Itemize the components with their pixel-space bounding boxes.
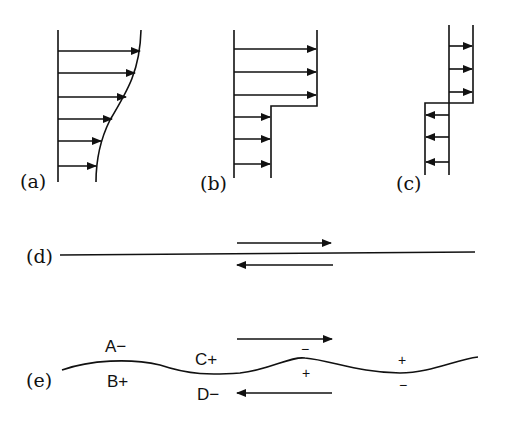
panel-c: (c) <box>396 25 473 194</box>
panel-a-label: (a) <box>20 170 46 192</box>
shear-flow-diagram: (a) (b) (c) (d) (e) A− B+ <box>0 0 505 421</box>
label-a-minus: A− <box>105 337 126 356</box>
trough-bottom-sign: − <box>399 377 407 393</box>
panel-e: (e) A− B+ C+ D− − + + − <box>26 337 478 404</box>
panel-c-label: (c) <box>396 172 421 194</box>
panel-d-label: (d) <box>26 245 53 267</box>
crest-bottom-sign: + <box>302 365 310 381</box>
label-d-minus: D− <box>197 385 219 404</box>
panel-b-label: (b) <box>200 172 227 194</box>
panel-e-label: (e) <box>26 369 52 391</box>
label-c-plus: C+ <box>195 350 217 369</box>
trough-top-sign: + <box>398 352 406 368</box>
panel-b: (b) <box>200 30 317 194</box>
panel-d: (d) <box>26 243 475 267</box>
crest-top-sign: − <box>301 341 309 357</box>
panel-a: (a) <box>20 30 141 192</box>
label-b-plus: B+ <box>107 372 128 391</box>
